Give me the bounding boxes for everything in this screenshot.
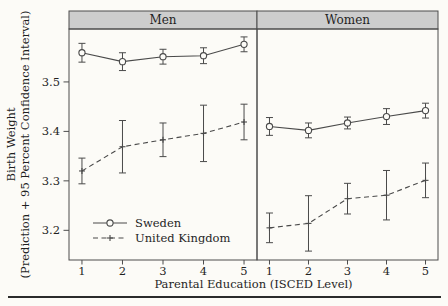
x-tick-label: 1 bbox=[78, 264, 85, 278]
birthweight-chart-canvas: 3.23.33.43.5Men12345Women12345Birth Weig… bbox=[0, 0, 448, 306]
legend-label: Sweden bbox=[135, 216, 182, 230]
x-tick-label: 5 bbox=[422, 264, 429, 278]
y-axis-title-line2: (Prediction + 95 Percent Confidence Inte… bbox=[18, 11, 32, 279]
circle-marker bbox=[305, 127, 311, 133]
circle-marker bbox=[119, 59, 125, 65]
circle-marker bbox=[79, 50, 85, 56]
legend-label: United Kingdom bbox=[135, 231, 231, 245]
x-tick-label: 3 bbox=[344, 264, 351, 278]
y-tick-label: 3.4 bbox=[42, 124, 60, 138]
y-axis-title-line1: Birth Weight bbox=[4, 107, 18, 181]
y-tick-label: 3.5 bbox=[42, 75, 60, 89]
x-tick-label: 3 bbox=[159, 264, 166, 278]
x-tick-label: 1 bbox=[266, 264, 273, 278]
x-tick-label: 2 bbox=[119, 264, 126, 278]
legend-circle-marker bbox=[107, 220, 113, 226]
x-axis-title: Parental Education (ISCED Level) bbox=[154, 277, 352, 291]
y-tick-label: 3.2 bbox=[42, 223, 60, 237]
x-tick-label: 2 bbox=[305, 264, 312, 278]
circle-marker bbox=[383, 113, 389, 119]
birthweight-figure: 3.23.33.43.5Men12345Women12345Birth Weig… bbox=[0, 0, 448, 306]
circle-marker bbox=[241, 41, 247, 47]
x-tick-label: 4 bbox=[200, 264, 207, 278]
circle-marker bbox=[266, 123, 272, 129]
circle-marker bbox=[200, 53, 206, 59]
x-tick-label: 5 bbox=[240, 264, 247, 278]
circle-marker bbox=[344, 120, 350, 126]
x-tick-label: 4 bbox=[383, 264, 390, 278]
circle-marker bbox=[422, 108, 428, 114]
y-tick-label: 3.3 bbox=[42, 174, 60, 188]
panel-title: Women bbox=[325, 13, 370, 27]
panel-title: Men bbox=[149, 13, 176, 27]
circle-marker bbox=[160, 54, 166, 60]
